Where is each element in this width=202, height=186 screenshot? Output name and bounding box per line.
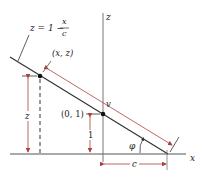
diagram-canvas: z x z = 1 − x c (x, z) z (0, 1) 1 v φ c	[0, 0, 202, 186]
point-01-label: (0, 1)	[61, 109, 84, 119]
angle-arc	[140, 139, 143, 153]
point-xz	[38, 74, 43, 79]
one-dimension-label: 1	[88, 130, 93, 140]
z-axis-label: z	[105, 12, 111, 22]
diagram-svg: z x z = 1 − x c (x, z) z (0, 1) 1 v φ c	[0, 0, 202, 186]
point-01	[101, 112, 106, 117]
c-dimension-label: c	[132, 159, 137, 169]
x-axis-label: x	[190, 153, 195, 163]
angle-phi-label: φ	[129, 141, 136, 151]
equation-lhs: z = 1 −	[29, 23, 64, 33]
equation-leader	[18, 35, 29, 61]
v-dimension-label: v	[106, 99, 111, 109]
point-xz-label: (x, z)	[52, 48, 73, 58]
equation-numerator: x	[62, 17, 67, 26]
z-dimension-label: z	[24, 111, 30, 121]
equation-denominator: c	[62, 29, 67, 38]
